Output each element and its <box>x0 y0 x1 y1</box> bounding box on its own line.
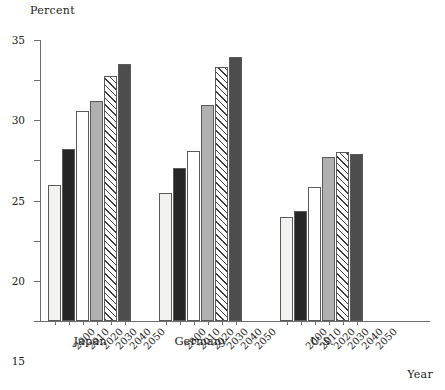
x-tick <box>329 321 330 325</box>
y-tick: 25 <box>34 120 40 121</box>
x-tick <box>222 321 223 325</box>
x-tick <box>55 321 56 325</box>
bar[interactable] <box>308 187 321 321</box>
bar[interactable] <box>336 152 349 321</box>
bar[interactable] <box>90 101 103 321</box>
bar[interactable] <box>48 185 61 321</box>
x-tick <box>194 321 195 325</box>
y-axis-line <box>40 40 41 322</box>
x-tick <box>83 321 84 325</box>
group-label: Japan <box>73 334 106 348</box>
bar-chart: Percent Year 05101520253035 200020102020… <box>0 0 445 390</box>
y-tick-label: 25 <box>12 195 25 207</box>
y-tick-label: 15 <box>12 355 25 367</box>
bar[interactable] <box>322 157 335 321</box>
group-label: Germany <box>174 334 227 348</box>
x-tick <box>125 321 126 325</box>
y-tick: 5 <box>34 281 40 282</box>
x-tick <box>69 321 70 325</box>
y-tick: 10 <box>34 241 40 242</box>
y-axis-label: Percent <box>30 4 75 17</box>
x-tick <box>287 321 288 325</box>
x-tick <box>357 321 358 325</box>
bar-group: 200020102020203020402050 <box>159 40 243 321</box>
bar-group: 200020102020203020402050 <box>280 40 364 321</box>
group-label: U.S. <box>310 334 333 348</box>
x-tick <box>343 321 344 325</box>
bar[interactable] <box>187 151 200 321</box>
x-tick <box>166 321 167 325</box>
bar[interactable] <box>62 149 75 321</box>
y-tick: 0 <box>34 321 40 322</box>
y-tick: 30 <box>34 80 40 81</box>
plot-area: 05101520253035 2000201020202030204020502… <box>40 40 430 322</box>
y-tick-label: 35 <box>12 34 25 46</box>
x-axis-line <box>40 321 430 322</box>
x-tick <box>180 321 181 325</box>
x-tick <box>301 321 302 325</box>
bar[interactable] <box>294 211 307 321</box>
bar[interactable] <box>76 111 89 321</box>
bar[interactable] <box>118 64 131 321</box>
x-axis-label: Year <box>407 368 433 381</box>
bar[interactable] <box>280 217 293 321</box>
y-tick: 35 <box>34 40 40 41</box>
y-tick-label: 30 <box>12 114 25 126</box>
bar[interactable] <box>350 154 363 321</box>
bar[interactable] <box>173 168 186 321</box>
y-tick: 15 <box>34 201 40 202</box>
bar-group: 200020102020203020402050 <box>48 40 132 321</box>
x-tick <box>111 321 112 325</box>
y-tick-label: 20 <box>12 275 25 287</box>
bar[interactable] <box>201 105 214 321</box>
x-tick <box>236 321 237 325</box>
bar[interactable] <box>104 76 117 321</box>
y-tick: 20 <box>34 160 40 161</box>
x-tick <box>315 321 316 325</box>
bar[interactable] <box>229 57 242 321</box>
x-tick <box>208 321 209 325</box>
bar[interactable] <box>159 193 172 321</box>
x-tick <box>97 321 98 325</box>
bar[interactable] <box>215 67 228 322</box>
